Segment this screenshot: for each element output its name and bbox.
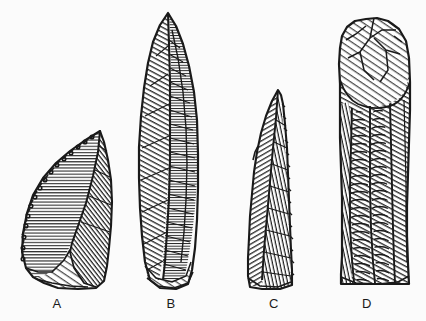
lithic-artifact-plate: A B C D Black-and-white ink line drawing… (0, 0, 426, 321)
figure-a-drawing (15, 120, 130, 300)
figure-a-label: A (47, 296, 67, 311)
figure-d-drawing (335, 14, 416, 290)
figure-b-label: B (161, 296, 181, 311)
figure-d-label: D (357, 296, 377, 311)
figure-c-label: C (264, 296, 284, 311)
plate-illustration (0, 0, 426, 321)
figure-b-drawing (130, 5, 215, 295)
figure-c-drawing (240, 85, 300, 295)
